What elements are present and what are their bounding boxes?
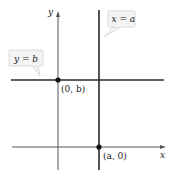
callout-x-equals-a: x = a — [104, 11, 135, 37]
point-label-0-b: (0, b) — [61, 84, 85, 94]
x-axis-arrow-icon — [160, 145, 166, 149]
y-axis-arrow-icon — [56, 11, 60, 17]
coordinate-plane: x y (0, b) (a, 0) x = a y = b — [0, 0, 177, 177]
x-axis-label: x — [160, 150, 165, 160]
point-0-b — [55, 77, 60, 82]
y-axis-label: y — [47, 7, 54, 17]
callout-y-equals-b: y = b — [9, 50, 43, 76]
point-a-0 — [96, 144, 101, 149]
callout-y-equals-b-text: y = b — [13, 54, 38, 64]
callout-x-equals-a-text: x = a — [112, 14, 136, 24]
point-label-a-0: (a, 0) — [103, 151, 127, 161]
